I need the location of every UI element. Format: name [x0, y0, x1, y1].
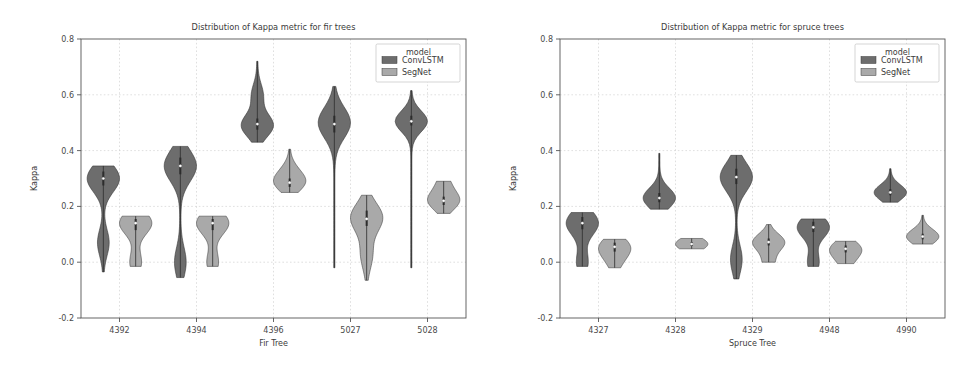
y-tick-label: 0.6	[61, 91, 74, 100]
violin-segnet-4396[interactable]	[274, 149, 306, 192]
violin-convlstm-5027[interactable]	[318, 86, 350, 267]
median-point	[289, 182, 291, 184]
median-point	[922, 235, 924, 237]
violin-convlstm-4392[interactable]	[87, 166, 119, 272]
panel-fir-trees: Distribution of Kappa metric for fir tre…	[0, 0, 479, 368]
x-tick-label: 4948	[819, 326, 839, 335]
median-point	[366, 218, 368, 220]
y-tick-label: 0.2	[61, 202, 74, 211]
legend-label-segnet: SegNet	[402, 68, 431, 77]
y-tick-label: 0.8	[540, 35, 553, 44]
violin-segnet-4948[interactable]	[830, 241, 862, 263]
x-tick-label: 4990	[896, 326, 916, 335]
y-tick-label: 0.0	[540, 258, 553, 267]
y-axis-label: Kappa	[30, 166, 39, 191]
violin-segnet-5027[interactable]	[351, 195, 383, 280]
chart-title: Distribution of Kappa metric for fir tre…	[192, 22, 356, 32]
median-point	[614, 246, 616, 248]
violin-convlstm-4396[interactable]	[241, 61, 273, 142]
violin-convlstm-4948[interactable]	[797, 219, 829, 266]
y-tick-label: 0.4	[540, 147, 553, 156]
legend-label-convlstm: ConvLSTM	[402, 56, 444, 65]
y-tick-label: 0.8	[61, 35, 74, 44]
y-tick-label: -0.2	[537, 314, 553, 323]
violin-convlstm-5028[interactable]	[395, 91, 427, 268]
legend-swatch-convlstm-icon	[861, 57, 876, 64]
chart-spruce-trees[interactable]: Distribution of Kappa metric for spruce …	[479, 0, 958, 368]
x-tick-label: 4394	[186, 326, 206, 335]
x-axis-label: Spruce Tree	[729, 339, 776, 348]
violin-convlstm-4327[interactable]	[566, 213, 598, 267]
median-point	[845, 248, 847, 250]
x-tick-label: 4392	[109, 326, 129, 335]
panel-spruce-trees: Distribution of Kappa metric for spruce …	[479, 0, 958, 368]
x-tick-label: 4329	[742, 326, 762, 335]
median-point	[691, 243, 693, 245]
y-tick-label: 0.0	[61, 258, 74, 267]
legend-swatch-segnet-icon	[861, 69, 876, 76]
x-tick-label: 5028	[417, 326, 437, 335]
median-point	[443, 200, 445, 202]
legend-label-segnet: SegNet	[881, 68, 910, 77]
y-tick-label: 0.6	[540, 91, 553, 100]
median-point	[333, 123, 335, 125]
y-tick-label: -0.2	[58, 314, 74, 323]
median-point	[812, 226, 814, 228]
violin-segnet-5028[interactable]	[428, 181, 460, 213]
median-point	[410, 120, 412, 122]
violin-convlstm-4394[interactable]	[164, 146, 196, 277]
median-point	[179, 165, 181, 167]
median-point	[256, 123, 258, 125]
x-tick-label: 4327	[588, 326, 608, 335]
chart-fir-trees[interactable]: Distribution of Kappa metric for fir tre…	[0, 0, 479, 368]
violin-figure: Distribution of Kappa metric for fir tre…	[0, 0, 958, 368]
median-point	[135, 222, 137, 224]
median-point	[768, 241, 770, 243]
legend: modelConvLSTMSegNet	[855, 44, 939, 82]
x-axis-label: Fir Tree	[259, 339, 288, 348]
legend-label-convlstm: ConvLSTM	[881, 56, 923, 65]
chart-title: Distribution of Kappa metric for spruce …	[661, 22, 844, 32]
median-point	[658, 197, 660, 199]
y-axis-label: Kappa	[509, 166, 518, 191]
violin-convlstm-4990[interactable]	[874, 169, 906, 202]
y-tick-label: 0.4	[61, 147, 74, 156]
x-tick-label: 4328	[665, 326, 685, 335]
legend: modelConvLSTMSegNet	[376, 44, 460, 82]
x-tick-label: 4396	[263, 326, 283, 335]
violin-convlstm-4329[interactable]	[720, 155, 752, 279]
median-point	[889, 191, 891, 193]
x-tick-label: 5027	[340, 326, 360, 335]
violin-segnet-4328[interactable]	[676, 238, 708, 248]
violin-convlstm-4328[interactable]	[643, 153, 675, 209]
median-point	[212, 222, 214, 224]
violin-segnet-4394[interactable]	[197, 216, 229, 266]
violin-segnet-4329[interactable]	[753, 225, 785, 263]
y-tick-label: 0.2	[540, 202, 553, 211]
median-point	[735, 176, 737, 178]
violin-segnet-4392[interactable]	[120, 216, 152, 266]
violin-segnet-4990[interactable]	[907, 215, 939, 244]
legend-swatch-segnet-icon	[382, 69, 397, 76]
legend-swatch-convlstm-icon	[382, 57, 397, 64]
median-point	[102, 177, 104, 179]
violin-segnet-4327[interactable]	[599, 239, 631, 267]
median-point	[581, 222, 583, 224]
